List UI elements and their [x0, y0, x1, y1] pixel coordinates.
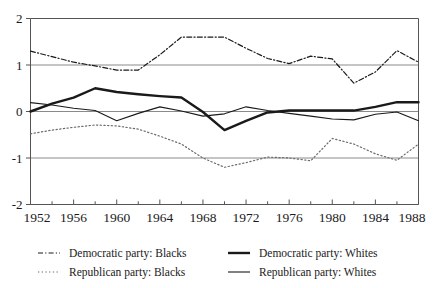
- legend-label-0: Democratic party: Blacks: [69, 247, 187, 260]
- x-tick-label-1976: 1976: [276, 210, 303, 225]
- x-tick-label-1956: 1956: [60, 210, 87, 225]
- y-tick-label--1: -1: [12, 151, 23, 166]
- series-line-2: [31, 88, 419, 130]
- chart-figure: 210-1-2 19521956196019641968197219761980…: [0, 0, 443, 288]
- x-tick-label-1960: 1960: [103, 210, 130, 225]
- x-tick-label-1972: 1972: [233, 210, 260, 225]
- x-tick-label-1952: 1952: [24, 210, 51, 225]
- legend-label-3: Republican party: Whites: [259, 266, 377, 279]
- line-chart-plot: 210-1-2 19521956196019641968197219761980…: [0, 0, 443, 288]
- x-tick-label-1980: 1980: [319, 210, 346, 225]
- x-tick-label-1968: 1968: [189, 210, 216, 225]
- y-tick-label-1: 1: [16, 58, 23, 73]
- gridlines-group: [31, 65, 419, 158]
- chart-legend: Democratic party: BlacksDemocratic party…: [38, 247, 378, 279]
- series-line-0: [31, 37, 419, 83]
- y-tick-label--2: -2: [12, 197, 23, 212]
- x-tick-label-1988: 1988: [399, 210, 426, 225]
- legend-label-2: Republican party: Blacks: [69, 266, 186, 279]
- y-tick-label-0: 0: [16, 104, 23, 119]
- y-axis-tick-labels: 210-1-2: [12, 11, 23, 212]
- data-series-group: [31, 37, 419, 167]
- x-tick-label-1964: 1964: [146, 210, 173, 225]
- x-axis-tick-labels: 1952195619601964196819721976198019841988: [24, 210, 426, 225]
- series-line-1: [31, 125, 419, 167]
- legend-label-1: Democratic party: Whites: [259, 247, 378, 260]
- x-tick-label-1984: 1984: [362, 210, 389, 225]
- y-tick-label-2: 2: [16, 11, 23, 26]
